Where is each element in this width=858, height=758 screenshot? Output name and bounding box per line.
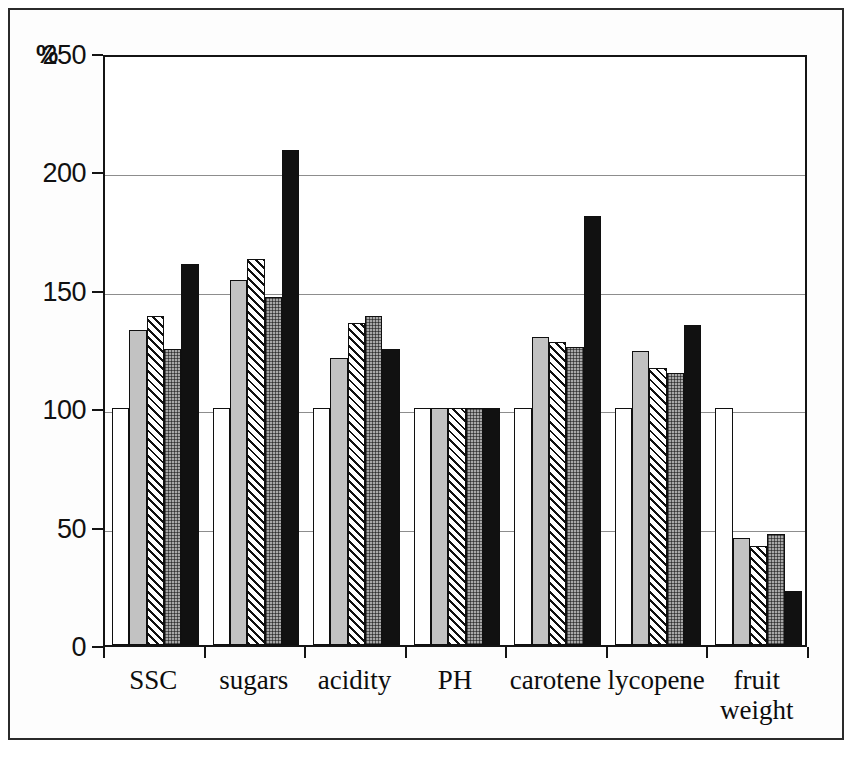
bar-lycopene-series-4[interactable] <box>667 373 684 645</box>
bar-group-ph <box>414 57 501 645</box>
x-tick-mark-1 <box>204 647 206 658</box>
x-category-label-line-1: carotene <box>510 665 601 695</box>
x-tick-mark-4 <box>505 647 507 658</box>
bar-fruit-weight-series-5[interactable] <box>785 591 802 645</box>
x-category-label-line-1: SSC <box>129 665 177 695</box>
bar-group-lycopene <box>615 57 702 645</box>
y-tick-mark-0 <box>92 646 103 648</box>
plot-area <box>103 55 807 647</box>
bar-lycopene-series-3[interactable] <box>649 368 666 645</box>
x-category-label-line-1: acidity <box>318 665 391 695</box>
bar-sugars-series-2[interactable] <box>230 280 247 645</box>
bar-acidity-series-4[interactable] <box>365 316 382 645</box>
bar-lycopene-series-1[interactable] <box>615 408 632 645</box>
bar-fruit-weight-series-2[interactable] <box>733 538 750 645</box>
bar-group-acidity <box>313 57 400 645</box>
bar-group-ssc <box>112 57 199 645</box>
bar-fruit-weight-series-3[interactable] <box>750 546 767 645</box>
bar-carotene-series-1[interactable] <box>514 408 531 645</box>
x-tick-mark-0 <box>103 647 105 658</box>
bar-acidity-series-5[interactable] <box>382 349 399 645</box>
x-tick-mark-7 <box>807 647 809 658</box>
x-category-label-line-2: weight <box>696 695 817 725</box>
y-tick-mark-100 <box>92 409 103 411</box>
bar-acidity-series-2[interactable] <box>330 358 347 645</box>
bar-ssc-series-2[interactable] <box>129 330 146 645</box>
bar-ssc-series-3[interactable] <box>147 316 164 645</box>
bar-ssc-series-4[interactable] <box>164 349 181 645</box>
bar-carotene-series-5[interactable] <box>584 216 601 645</box>
x-tick-mark-3 <box>405 647 407 658</box>
bar-acidity-series-1[interactable] <box>313 408 330 645</box>
bar-ph-series-2[interactable] <box>431 408 448 645</box>
bar-lycopene-series-5[interactable] <box>684 325 701 645</box>
y-tick-label-0: 0 <box>0 634 86 661</box>
bar-lycopene-series-2[interactable] <box>632 351 649 645</box>
bar-ph-series-1[interactable] <box>414 408 431 645</box>
x-category-label-line-1: PH <box>438 665 473 695</box>
bar-sugars-series-3[interactable] <box>247 259 264 645</box>
bar-carotene-series-2[interactable] <box>532 337 549 645</box>
bar-ph-series-5[interactable] <box>483 408 500 645</box>
bar-sugars-series-4[interactable] <box>265 297 282 645</box>
y-tick-mark-50 <box>92 528 103 530</box>
x-category-label-line-1: fruit <box>733 665 780 695</box>
y-tick-label-250: 250 <box>0 42 86 69</box>
x-tick-mark-5 <box>606 647 608 658</box>
y-tick-label-200: 200 <box>0 160 86 187</box>
bar-chart: % 050100150200250 SSCsugarsacidityPHcaro… <box>0 0 858 758</box>
y-tick-mark-150 <box>92 291 103 293</box>
bar-acidity-series-3[interactable] <box>348 323 365 645</box>
y-tick-mark-250 <box>92 54 103 56</box>
bar-ph-series-3[interactable] <box>448 408 465 645</box>
bar-sugars-series-1[interactable] <box>213 408 230 645</box>
bar-fruit-weight-series-1[interactable] <box>715 408 732 645</box>
bar-carotene-series-4[interactable] <box>566 347 583 645</box>
bar-ssc-series-5[interactable] <box>181 264 198 645</box>
x-category-label-line-1: sugars <box>219 665 288 695</box>
bar-ph-series-4[interactable] <box>466 408 483 645</box>
x-tick-mark-2 <box>304 647 306 658</box>
bar-sugars-series-5[interactable] <box>282 150 299 645</box>
bar-ssc-series-1[interactable] <box>112 408 129 645</box>
y-tick-label-150: 150 <box>0 279 86 306</box>
y-tick-label-100: 100 <box>0 397 86 424</box>
x-category-label-fruit-weight: fruitweight <box>696 665 817 725</box>
bar-carotene-series-3[interactable] <box>549 342 566 645</box>
y-tick-mark-200 <box>92 172 103 174</box>
y-tick-label-50: 50 <box>0 516 86 543</box>
bar-fruit-weight-series-4[interactable] <box>767 534 784 645</box>
x-category-label-line-1: lycopene <box>607 665 704 695</box>
x-tick-mark-6 <box>706 647 708 658</box>
bar-group-fruit-weight <box>715 57 802 645</box>
bar-group-sugars <box>213 57 300 645</box>
bar-group-carotene <box>514 57 601 645</box>
